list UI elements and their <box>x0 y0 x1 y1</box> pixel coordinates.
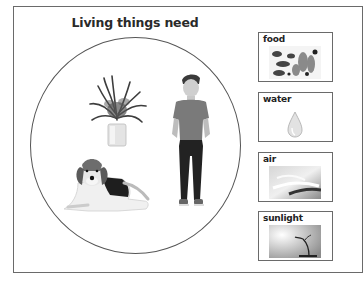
beagle-dog-icon <box>58 155 156 215</box>
boy-icon <box>166 72 216 210</box>
need-card-food: food <box>258 32 333 82</box>
worksheet-title: Living things need <box>60 15 210 30</box>
need-card-sunlight: sunlight <box>258 211 333 261</box>
need-label: food <box>263 34 285 44</box>
sunlight-icon <box>269 225 321 258</box>
need-label: air <box>263 154 276 164</box>
need-card-water: water <box>258 92 333 142</box>
food-icon <box>269 46 321 79</box>
air-icon <box>269 166 321 199</box>
water-drop-icon <box>269 106 321 139</box>
need-label: sunlight <box>263 213 303 223</box>
need-label: water <box>263 94 291 104</box>
need-card-air: air <box>258 152 333 202</box>
potted-plant-icon <box>86 68 148 148</box>
